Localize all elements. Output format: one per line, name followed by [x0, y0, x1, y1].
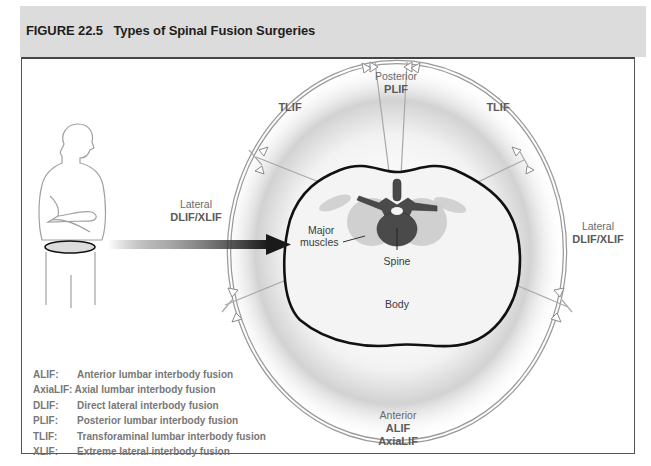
lateral-arrow-shaft — [108, 240, 268, 249]
legend-row: PLIF:Posterior lumbar interbody fusion — [33, 413, 266, 428]
legend-desc: Axial lumbar interbody fusion — [74, 382, 215, 397]
legend-abbr: AxiaLIF: — [33, 382, 72, 397]
major-muscles-label: Major muscles — [300, 224, 348, 248]
tlif-left-label: TLIF — [270, 101, 310, 114]
lateral-left-direction: Lateral — [166, 198, 226, 211]
dlif-xlif-right-label: DLIF/XLIF — [566, 233, 630, 246]
legend-row: ALIF:Anterior lumbar interbody fusion — [33, 367, 266, 382]
tlif-right-label: TLIF — [478, 101, 518, 114]
anterior-direction: Anterior — [368, 409, 428, 422]
muscles-label-line1: Major — [300, 224, 348, 236]
legend-abbr: XLIF: — [33, 444, 77, 459]
legend-abbr: DLIF: — [33, 398, 77, 413]
legend-abbr: PLIF: — [33, 413, 77, 428]
tlif-right-text: TLIF — [478, 101, 518, 114]
legend-abbr: ALIF: — [33, 367, 77, 382]
body-label: Body — [377, 298, 417, 310]
legend-desc: Extreme lateral interbody fusion — [77, 444, 230, 459]
human-figure-icon — [39, 124, 106, 308]
legend-desc: Posterior lumbar interbody fusion — [77, 413, 238, 428]
legend-desc: Direct lateral interbody fusion — [77, 398, 219, 413]
anterior-approach-label: Anterior ALIF AxiaLIF — [368, 409, 428, 448]
legend-desc: Anterior lumbar interbody fusion — [77, 367, 233, 382]
alif-label: ALIF — [368, 422, 428, 435]
spine-label: Spine — [377, 255, 417, 267]
plif-label: PLIF — [366, 83, 426, 96]
posterior-direction: Posterior — [366, 70, 426, 83]
posterior-approach-label: Posterior PLIF — [366, 70, 426, 96]
muscles-label-line2: muscles — [300, 236, 348, 248]
legend-row: DLIF:Direct lateral interbody fusion — [33, 398, 266, 413]
lateral-right-approach-label: Lateral DLIF/XLIF — [566, 220, 630, 246]
axialif-label: AxiaLIF — [368, 435, 428, 448]
legend-desc: Transforaminal lumbar interbody fusion — [77, 429, 266, 444]
lateral-left-approach-label: Lateral DLIF/XLIF — [166, 198, 226, 224]
waist-slice-icon — [45, 241, 95, 253]
tlif-left-text: TLIF — [270, 101, 310, 114]
legend-row: AxiaLIF:Axial lumbar interbody fusion — [33, 382, 266, 397]
spinal-canal — [391, 207, 403, 215]
lateral-right-direction: Lateral — [566, 220, 630, 233]
abbreviation-legend: ALIF:Anterior lumbar interbody fusion Ax… — [33, 367, 266, 459]
dlif-xlif-left-label: DLIF/XLIF — [166, 211, 226, 224]
legend-row: TLIF:Transforaminal lumbar interbody fus… — [33, 429, 266, 444]
legend-abbr: TLIF: — [33, 429, 77, 444]
legend-row: XLIF:Extreme lateral interbody fusion — [33, 444, 266, 459]
